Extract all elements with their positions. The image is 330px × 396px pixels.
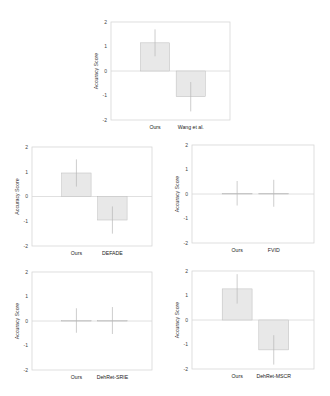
y-tick-label: -1 [24, 218, 29, 224]
subplot-ours-vs-dehret-srie: 210-1-2Accuracy ScoreOursDehRet-SRIE [10, 270, 154, 386]
y-tick-label: 0 [25, 318, 28, 324]
x-tick-label: Wang et al. [178, 124, 204, 130]
x-tick-label: Ours [232, 373, 244, 379]
x-tick-label: Ours [232, 247, 244, 253]
chart-svg: 210-1-2Accuracy ScoreOursDEFADE [10, 145, 154, 262]
y-axis-label: Accuracy Score [14, 303, 20, 339]
x-tick-label: DehRet-MSCR [256, 373, 291, 379]
chart-svg: 210-1-2Accuracy ScoreOursWang et al. [89, 20, 232, 136]
y-tick-label: 1 [185, 292, 188, 298]
y-tick-label: -2 [184, 366, 189, 372]
subplot-ours-vs-defade: 210-1-2Accuracy ScoreOursDEFADE [10, 145, 154, 262]
y-tick-label: 0 [185, 191, 188, 197]
y-tick-label: 1 [104, 43, 107, 49]
x-tick-label: Ours [149, 124, 161, 130]
chart-svg: 210-1-2Accuracy ScoreOursFVID [170, 143, 316, 259]
y-tick-label: 1 [25, 169, 28, 175]
y-tick-label: 2 [185, 142, 188, 148]
y-axis-label: Accuracy Score [174, 176, 180, 212]
y-tick-label: 2 [185, 268, 188, 274]
y-tick-label: -2 [103, 117, 108, 123]
y-tick-label: 1 [185, 166, 188, 172]
y-tick-label: 2 [25, 269, 28, 275]
chart-svg: 210-1-2Accuracy ScoreOursDehRet-MSCR [170, 269, 316, 385]
y-tick-label: -1 [103, 92, 108, 98]
subplot-ours-vs-dehret-mscr: 210-1-2Accuracy ScoreOursDehRet-MSCR [170, 269, 316, 385]
subplot-ours-vs-fvid: 210-1-2Accuracy ScoreOursFVID [170, 143, 316, 259]
x-tick-label: Ours [71, 374, 83, 380]
subplot-ours-vs-wang: 210-1-2Accuracy ScoreOursWang et al. [89, 20, 232, 136]
x-tick-label: DEFADE [102, 250, 123, 256]
y-tick-label: -2 [24, 367, 29, 373]
y-tick-label: -1 [24, 342, 29, 348]
x-tick-label: FVID [268, 247, 280, 253]
y-tick-label: 0 [104, 68, 107, 74]
y-tick-label: -2 [24, 243, 29, 249]
y-tick-label: 0 [25, 193, 28, 199]
y-tick-label: 1 [25, 293, 28, 299]
chart-svg: 210-1-2Accuracy ScoreOursDehRet-SRIE [10, 270, 154, 386]
y-tick-label: -2 [184, 240, 189, 246]
x-tick-label: DehRet-SRIE [97, 374, 129, 380]
y-axis-label: Accuracy Score [14, 178, 20, 214]
y-tick-label: -1 [184, 341, 189, 347]
y-axis-label: Accuracy Score [174, 302, 180, 338]
y-tick-label: 2 [104, 19, 107, 25]
y-tick-label: 0 [185, 317, 188, 323]
y-axis-label: Accuracy Score [93, 53, 99, 89]
y-tick-label: 2 [25, 144, 28, 150]
y-tick-label: -1 [184, 215, 189, 221]
x-tick-label: Ours [71, 250, 83, 256]
